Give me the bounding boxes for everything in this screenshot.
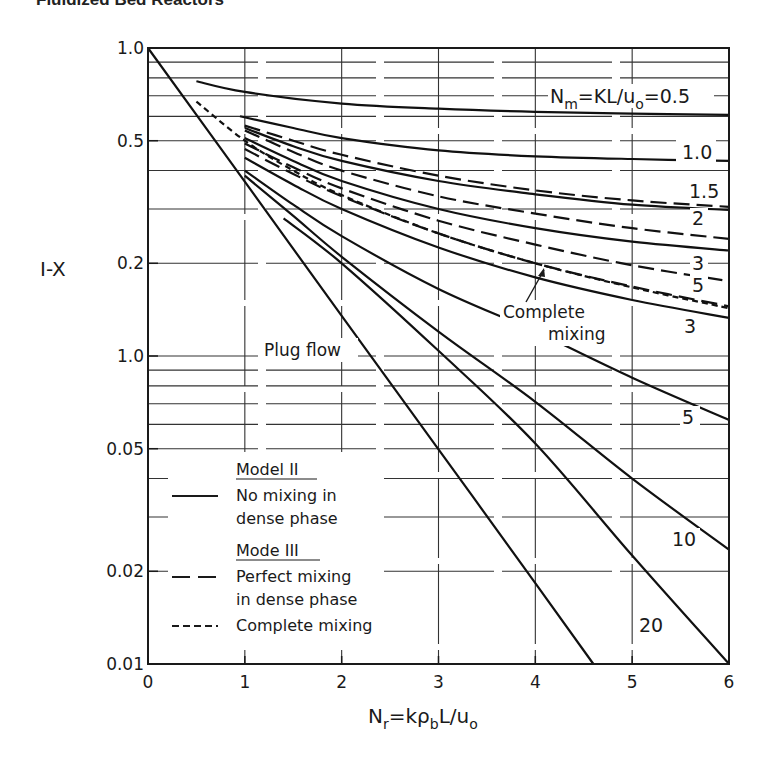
curve-label-5-solid: 5: [682, 406, 694, 428]
param-b: =KL/u: [578, 85, 635, 107]
legend: Model II No mixing in dense phase Mode I…: [168, 452, 380, 647]
complete-mixing-arrowhead: [538, 268, 545, 277]
y-tick-label: 0.5: [117, 131, 144, 151]
y-tick-label: 0.2: [117, 253, 144, 273]
curve-label-10: 10: [672, 528, 696, 550]
y-tick-label: 1.0: [117, 38, 144, 58]
legend-model3-desc1: Perfect mixing: [236, 567, 351, 586]
x-tick-label: 1: [239, 672, 250, 692]
param-a: N: [550, 85, 564, 107]
complete-mixing-label-1: Complete: [503, 302, 585, 322]
x-title-main: N: [368, 704, 383, 728]
x-axis-title: Nr=kρbL/uo: [368, 704, 478, 732]
legend-model2-title: Model II: [236, 460, 299, 479]
x-title-rest2: L/u: [439, 704, 470, 728]
curve-labels: 1.0 1.5 2 3 5 3 5 10 20: [638, 140, 720, 636]
y-tick-label: 1.0: [117, 346, 144, 366]
y-axis-title: I-X: [40, 257, 66, 281]
curve-label-3-solid: 3: [684, 315, 696, 337]
x-tick-label: 3: [433, 672, 444, 692]
curve-model-iii-nm-1.5: [245, 126, 729, 207]
legend-complete-desc: Complete mixing: [236, 616, 372, 635]
y-tick-label: 0.05: [106, 439, 144, 459]
param-c: =0.5: [644, 85, 690, 107]
x-title-rest1: =kρ: [389, 704, 430, 728]
curve-label-2: 2: [692, 207, 704, 229]
curve-label-3-dashed: 3: [692, 252, 704, 274]
x-title-sub2: b: [430, 716, 439, 732]
curve-label-1.0: 1.0: [682, 141, 712, 163]
complete-mixing-label-2: mixing: [548, 324, 606, 344]
legend-model2-desc1: No mixing in: [236, 486, 337, 505]
curve-label-20: 20: [639, 614, 663, 636]
x-tick-label: 0: [143, 672, 154, 692]
legend-model2-desc2: dense phase: [236, 509, 338, 528]
x-title-sub3: o: [469, 716, 478, 732]
x-tick-label: 4: [530, 672, 541, 692]
y-tick-label: 0.01: [106, 654, 144, 674]
curve-model-iii-nm-3: [245, 143, 729, 281]
legend-model3-title: Mode III: [236, 541, 299, 560]
x-tick-label: 6: [724, 672, 735, 692]
legend-model3-desc2: in dense phase: [236, 590, 357, 609]
curve-label-5-dashed: 5: [692, 274, 704, 296]
curve-model-ii-nm-5: [245, 171, 729, 420]
plug-flow-label: Plug flow: [264, 340, 341, 360]
curve-label-1.5: 1.5: [689, 180, 719, 202]
param-sub: m: [564, 96, 578, 112]
y-tick-label: 0.02: [106, 561, 144, 581]
x-tick-label: 5: [627, 672, 638, 692]
chart: 01234561.00.50.21.00.050.020.01 I-X Nr=k…: [0, 0, 766, 769]
param-sub2: o: [635, 96, 644, 112]
x-tick-label: 2: [336, 672, 347, 692]
curve-model-ii-nm-1.0: [240, 116, 729, 161]
